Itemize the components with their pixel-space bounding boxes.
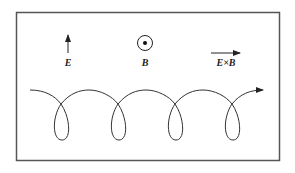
magnetic-field-label: B bbox=[141, 57, 149, 68]
drift-vector: E×B bbox=[211, 53, 240, 68]
electric-field-label: E bbox=[64, 57, 72, 68]
particle-trajectory bbox=[30, 90, 263, 140]
dot-icon bbox=[143, 41, 147, 45]
drift-label: E×B bbox=[215, 57, 235, 68]
magnetic-field-vector: B bbox=[138, 36, 153, 69]
electric-field-vector: E bbox=[64, 35, 72, 68]
exb-drift-diagram: E B E×B bbox=[0, 0, 295, 173]
frame bbox=[17, 13, 280, 161]
